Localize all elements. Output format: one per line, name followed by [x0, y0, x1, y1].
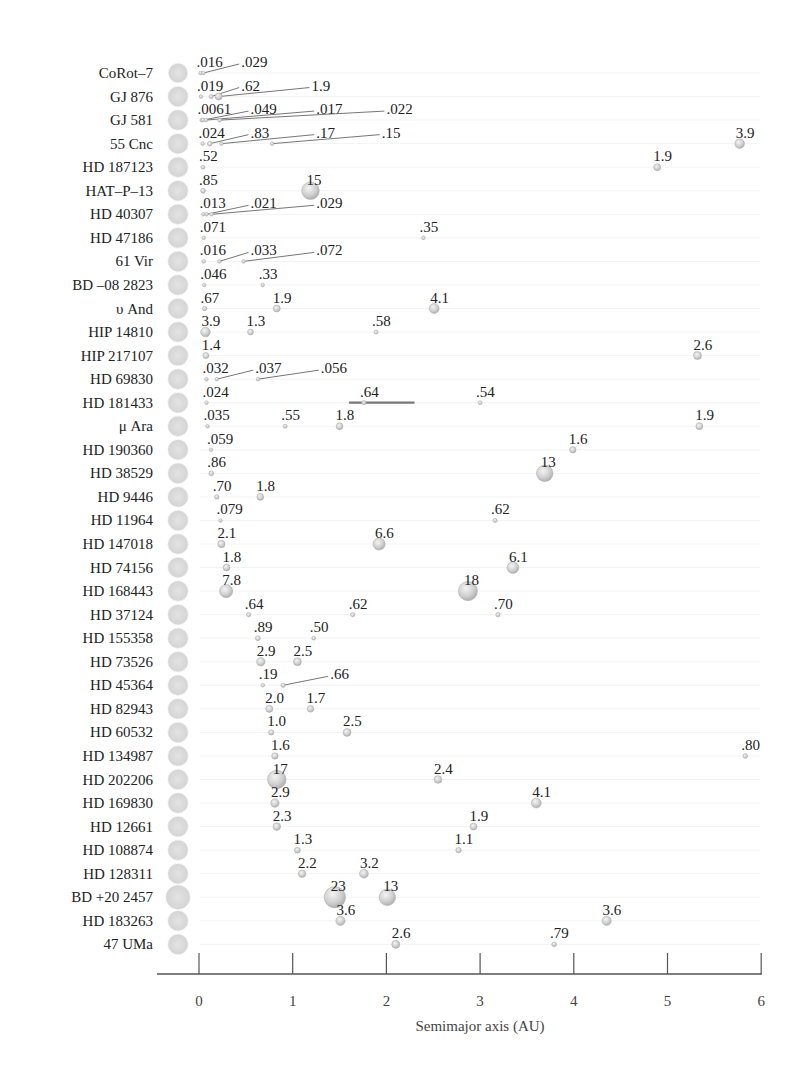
- planet-mass-label: .19: [259, 666, 278, 682]
- star-disc: [168, 110, 188, 130]
- planet-mass-label: 1.1: [455, 831, 474, 847]
- star-disc: [168, 440, 188, 460]
- system-row: HD 69830.032.037.056: [90, 360, 760, 389]
- planet-marker: .50: [310, 619, 329, 640]
- system-row: HD 11964.079.62: [91, 501, 760, 530]
- planet-bubble: [493, 518, 497, 522]
- planet-bubble: [434, 776, 442, 784]
- planet-bubble: [202, 236, 206, 240]
- star-name-label: HD 108874: [83, 842, 154, 858]
- planet-bubble: [247, 613, 251, 617]
- planet-mass-label: .64: [360, 384, 379, 400]
- planet-mass-label: 2.1: [217, 525, 236, 541]
- planet-bubble: [298, 870, 305, 877]
- planet-mass-label: 1.9: [273, 290, 292, 306]
- planet-marker: 18: [458, 572, 479, 601]
- planet-bubble: [206, 424, 210, 428]
- planet-mass-label: 6.1: [509, 549, 528, 565]
- star-name-label: 47 UMa: [103, 936, 153, 952]
- star-name-label: HD 183263: [83, 913, 153, 929]
- star-name-label: HD 47186: [90, 230, 153, 246]
- planet-mass-label: .79: [550, 925, 569, 941]
- planet-marker: 4.1: [531, 784, 551, 808]
- system-row: HD 9446.701.8: [98, 478, 760, 507]
- planet-mass-label: 1.7: [307, 690, 326, 706]
- x-tick-label: 2: [383, 993, 391, 1009]
- planet-bubble: [307, 706, 314, 713]
- system-row: HD 181433.024.64.54: [83, 384, 760, 413]
- star-name-label: HD 12661: [90, 819, 153, 835]
- star-disc: [168, 699, 188, 719]
- planet-mass-label: .079: [216, 501, 242, 517]
- star-disc: [168, 652, 188, 672]
- planet-bubble: [205, 401, 209, 405]
- planet-bubble: [248, 329, 254, 335]
- star-disc: [168, 675, 188, 695]
- planet-mass-label: 2.4: [434, 761, 453, 777]
- star-name-label: HD 40307: [90, 206, 153, 222]
- star-name-label: HD 169830: [83, 795, 153, 811]
- system-row: HD 1283112.23.2: [83, 855, 760, 884]
- x-tick-label: 0: [195, 993, 203, 1009]
- system-row: HD 126612.31.9: [90, 808, 760, 837]
- planet-mass-label: .046: [200, 266, 227, 282]
- planet-mass-label: .80: [741, 737, 760, 753]
- planet-mass-label: .50: [310, 619, 329, 635]
- planet-mass-label: 4.1: [532, 784, 551, 800]
- planet-mass-label: .58: [372, 313, 391, 329]
- star-disc: [168, 746, 188, 766]
- planet-mass-label: 1.8: [223, 549, 242, 565]
- planet-marker: .33: [259, 266, 278, 287]
- planet-marker: .52: [199, 148, 218, 169]
- star-name-label: HD 73526: [90, 654, 153, 670]
- planet-marker: .55: [281, 407, 300, 428]
- planet-bubble: [570, 447, 576, 453]
- planet-bubble: [207, 141, 212, 146]
- planet-mass-label: 2.0: [265, 690, 284, 706]
- planet-marker: .62: [349, 596, 368, 617]
- planet-mass-label: .029: [316, 195, 342, 211]
- planet-marker: .80: [741, 737, 760, 758]
- planet-mass-label: 2.3: [273, 808, 292, 824]
- planet-mass-label: 6.6: [375, 525, 394, 541]
- x-axis-ticks: 0123456: [195, 953, 765, 1009]
- system-row: HD 741561.86.1: [90, 549, 760, 578]
- planet-marker: 3.9: [735, 125, 755, 149]
- exoplanet-systems-chart: CoRot–7.016.029GJ 876.019.621.9GJ 581.00…: [0, 0, 804, 1074]
- planet-bubble: [205, 213, 209, 217]
- planet-bubble: [266, 705, 273, 712]
- planet-mass-label: .022: [386, 101, 412, 117]
- planet-bubble: [261, 684, 265, 688]
- planet-bubble: [343, 728, 351, 736]
- planet-marker: .85: [199, 172, 218, 193]
- planet-mass-label: 3.6: [603, 902, 622, 918]
- planet-mass-label: .62: [349, 596, 368, 612]
- planet-bubble: [470, 823, 477, 830]
- star-disc: [168, 204, 188, 224]
- star-name-label: HD 45364: [90, 677, 153, 693]
- planet-marker: .033: [218, 242, 277, 263]
- star-disc: [168, 228, 188, 248]
- leader-line: [219, 88, 310, 97]
- planet-mass-label: .019: [197, 78, 223, 94]
- planet-marker: .79: [550, 925, 569, 946]
- star-name-label: HD 147018: [83, 536, 153, 552]
- star-disc: [168, 558, 188, 578]
- planet-marker: 3.6: [602, 902, 622, 926]
- planet-mass-label: .0061: [198, 101, 232, 117]
- planet-marker: 2.6: [392, 925, 411, 948]
- star-name-label: υ And: [116, 301, 154, 317]
- planet-mass-label: .66: [330, 666, 349, 682]
- x-axis-title: Semimajor axis (AU): [415, 1018, 544, 1035]
- planet-bubble: [218, 118, 222, 122]
- planet-mass-label: 1.3: [293, 831, 312, 847]
- planet-bubble: [456, 847, 461, 852]
- planet-mass-label: .67: [201, 290, 220, 306]
- planet-bubble: [255, 636, 260, 641]
- planet-bubble: [210, 213, 214, 217]
- planet-bubble: [202, 306, 206, 310]
- star-disc: [168, 416, 188, 436]
- star-disc: [168, 605, 188, 625]
- star-name-label: HD 82943: [90, 701, 153, 717]
- planet-marker: 6.1: [507, 549, 528, 574]
